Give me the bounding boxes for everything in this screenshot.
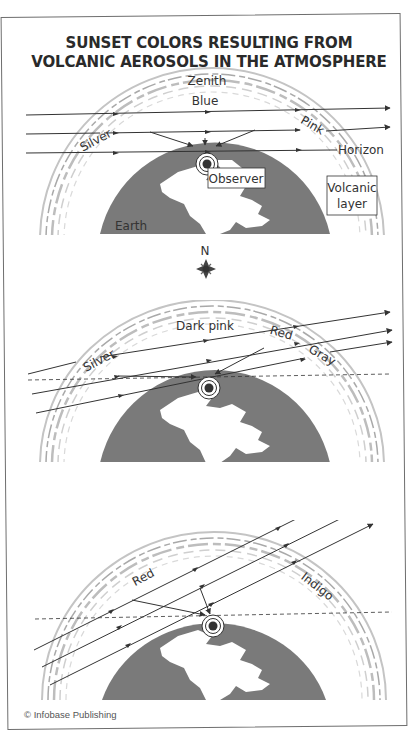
red-label-2: Red: [269, 323, 295, 343]
dark-pink-label: Dark pink: [176, 319, 234, 333]
horizon-label: Horizon: [338, 143, 384, 157]
observer-marker-2: [198, 377, 220, 399]
volcanic-layer-label-2: layer: [337, 197, 367, 211]
indigo-label: Indigo: [298, 570, 336, 604]
compass-rose: N: [196, 244, 216, 279]
copyright-credit: © Infobase Publishing: [24, 709, 117, 720]
observer-label: Observer: [208, 172, 263, 186]
blue-label: Blue: [192, 94, 219, 108]
observer-marker-3: [202, 615, 224, 637]
panel-3: [34, 489, 392, 700]
volcanic-layer-label-1: Volcanic: [327, 181, 376, 195]
silver-label-2: Silver: [81, 346, 117, 374]
sunset-diagram: Zenith Blue Silver Pink Horizon Observer…: [0, 0, 418, 732]
earth-label: Earth: [115, 219, 147, 233]
north-label: N: [201, 244, 210, 258]
zenith-label: Zenith: [188, 74, 227, 88]
